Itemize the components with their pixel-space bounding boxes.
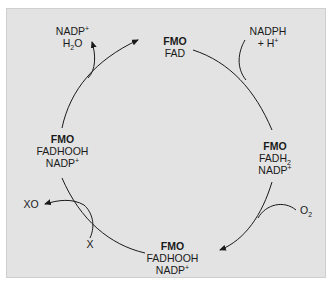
arrow-o2-in — [258, 204, 296, 218]
species-nadp-h2o: NADP+ H2O — [50, 25, 95, 49]
arrow-bottom-to-left — [62, 178, 145, 253]
species-o2: O2 — [296, 204, 316, 216]
node-top: FMO FAD — [150, 35, 200, 59]
species-x: X — [82, 238, 98, 250]
node-right: FMO FADH2 NADP+ — [245, 140, 305, 176]
species-nadph-h: NADPH + H+ — [238, 25, 298, 49]
species-xo: XO — [20, 198, 42, 210]
node-left: FMO FADHOOH NADP+ — [30, 133, 95, 169]
arrow-left-to-top — [62, 40, 138, 128]
arrow-x-to-xo — [45, 200, 93, 238]
node-bottom: FMO FADHOOH NADP+ — [140, 240, 205, 276]
arrow-top-to-right — [193, 50, 272, 130]
arrow-right-to-bottom — [220, 182, 272, 250]
